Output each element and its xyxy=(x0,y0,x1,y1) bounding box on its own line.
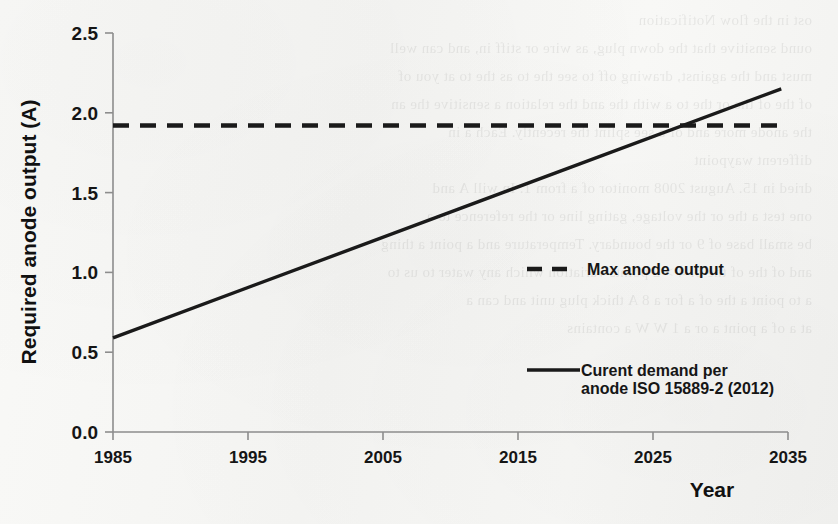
legend-entry-max-anode-output[interactable]: Max anode output xyxy=(527,261,725,278)
x-tick-labels: 1985 1995 2005 2015 2025 2035 xyxy=(94,448,807,467)
x-tick-label: 2025 xyxy=(634,448,672,467)
y-tick-labels: 0.0 0.5 1.0 1.5 2.0 2.5 xyxy=(72,23,99,443)
y-tick-label: 0.0 xyxy=(72,422,98,443)
y-tick-label: 2.5 xyxy=(72,23,99,44)
x-tick-label: 2035 xyxy=(769,448,807,467)
x-tick-label: 1985 xyxy=(94,448,132,467)
x-tick-label: 1995 xyxy=(229,448,267,467)
x-tick-marks xyxy=(113,432,788,440)
legend: Max anode output Curent demand per anode… xyxy=(527,261,774,397)
y-tick-label: 0.5 xyxy=(72,342,99,363)
y-axis-title: Required anode output (A) xyxy=(17,100,40,365)
x-axis-title: Year xyxy=(690,478,734,501)
legend-label-current-demand-line2: anode ISO 15889-2 (2012) xyxy=(581,380,774,397)
plot-svg: 0.0 0.5 1.0 1.5 2.0 2.5 1985 1995 2005 xyxy=(0,0,838,524)
y-tick-marks xyxy=(105,33,113,432)
chart-page: ost in the flow Notification ound sensit… xyxy=(0,0,838,524)
x-tick-label: 2005 xyxy=(364,448,402,467)
y-tick-label: 1.5 xyxy=(72,183,99,204)
legend-label-max-anode-output: Max anode output xyxy=(587,261,725,278)
y-tick-label: 2.0 xyxy=(72,103,98,124)
legend-label-current-demand-line1: Curent demand per xyxy=(581,362,728,379)
legend-entry-current-demand[interactable]: Curent demand per anode ISO 15889-2 (201… xyxy=(527,362,774,397)
y-tick-label: 1.0 xyxy=(72,262,98,283)
x-tick-label: 2015 xyxy=(499,448,537,467)
line-chart: 0.0 0.5 1.0 1.5 2.0 2.5 1985 1995 2005 xyxy=(0,0,838,524)
